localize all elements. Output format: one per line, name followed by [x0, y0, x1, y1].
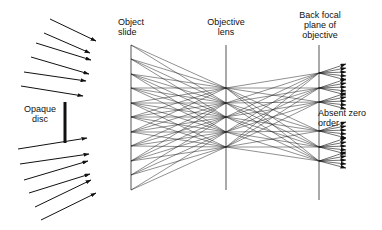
slide-to-lens-rays	[131, 45, 226, 190]
dark-field-diagram: Opaque disc Object slide Objective lens …	[0, 0, 382, 230]
object-slide-label: Object slide	[118, 17, 152, 37]
lens-to-focal-rays	[226, 73, 319, 161]
opaque-disc-label: Opaque disc	[18, 104, 62, 124]
objective-lens-label: Objective lens	[200, 17, 252, 37]
absent-zero-order-label: Absent zero order	[318, 108, 382, 128]
back-focal-plane-label: Back focal plane of objective	[292, 10, 348, 40]
